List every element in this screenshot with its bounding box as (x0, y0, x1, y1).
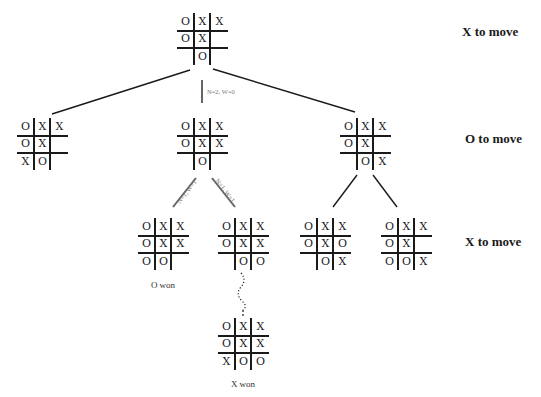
cell (415, 235, 432, 252)
cell: X (334, 253, 351, 270)
cell: X (235, 335, 252, 352)
edge-label-middle-right: N=1, W=1 (214, 177, 237, 203)
caption-x-won: X won (213, 379, 273, 389)
cell (211, 153, 228, 170)
board-level2-b: O X X O X X O O (218, 218, 269, 270)
cell: X (34, 135, 51, 152)
cell (51, 153, 68, 170)
cell: O (340, 118, 357, 135)
cell: X (211, 135, 228, 152)
cell (177, 153, 194, 170)
side-label-level0: X to move (462, 24, 518, 40)
cell: O (381, 235, 398, 252)
cell: X (374, 153, 391, 170)
cell: O (381, 253, 398, 270)
board-level2-c: O X X O X O O X (300, 218, 351, 270)
tree-edges: N=2, W=0 N=1, W=1 N=1, W=1 (0, 0, 541, 397)
cell: O (300, 235, 317, 252)
cell: O (398, 253, 415, 270)
cell: X (398, 218, 415, 235)
cell: X (194, 30, 211, 47)
cell: X (415, 253, 432, 270)
cell: X (194, 118, 211, 135)
cell: O (177, 135, 194, 152)
cell: X (252, 318, 269, 335)
cell: X (357, 135, 374, 152)
cell: O (138, 218, 155, 235)
cell: O (218, 218, 235, 235)
cell: X (155, 218, 172, 235)
cell: O (317, 253, 334, 270)
cell: O (138, 235, 155, 252)
cell: X (357, 118, 374, 135)
cell (211, 48, 228, 65)
cell (211, 30, 228, 47)
cell: O (177, 118, 194, 135)
caption-o-won: O won (133, 280, 193, 290)
side-label-level1: O to move (465, 131, 522, 147)
game-tree-diagram: N=2, W=0 N=1, W=1 N=1, W=1 O X X O X O O… (0, 0, 541, 397)
cell: X (218, 353, 235, 370)
cell: O (194, 48, 211, 65)
cell: O (252, 253, 269, 270)
cell: O (17, 135, 34, 152)
cell: X (334, 218, 351, 235)
edge-label-middle-left: N=1, W=1 (175, 178, 198, 204)
board-level1-right: O X X O X O X (340, 118, 391, 170)
cell: O (381, 218, 398, 235)
cell: O (177, 13, 194, 30)
board-level1-left: O X X O X X O (17, 118, 68, 170)
cell: X (34, 118, 51, 135)
cell: X (252, 218, 269, 235)
cell: O (138, 253, 155, 270)
cell: O (235, 353, 252, 370)
cell: O (340, 135, 357, 152)
cell: O (218, 335, 235, 352)
cell: O (177, 30, 194, 47)
cell (218, 253, 235, 270)
cell: X (211, 13, 228, 30)
cell: X (211, 118, 228, 135)
board-level2-d: O X X O X O O X (381, 218, 432, 270)
cell: O (155, 253, 172, 270)
cell: X (415, 218, 432, 235)
cell: O (17, 118, 34, 135)
side-label-level2: X to move (465, 234, 521, 250)
cell: O (252, 353, 269, 370)
cell: O (300, 218, 317, 235)
edge-right-left (333, 175, 357, 207)
cell: O (357, 153, 374, 170)
cell: X (398, 235, 415, 252)
board-root: O X X O X O (177, 13, 228, 65)
edge-right-right (373, 175, 397, 207)
cell: O (218, 235, 235, 252)
cell: X (17, 153, 34, 170)
cell: O (235, 253, 252, 270)
cell: X (317, 218, 334, 235)
edge-ellipsis-path (238, 273, 245, 310)
edge-label-root-middle: N=2, W=0 (207, 88, 235, 95)
cell: O (218, 318, 235, 335)
cell: X (235, 218, 252, 235)
cell: X (172, 235, 189, 252)
cell: X (252, 335, 269, 352)
cell (374, 135, 391, 152)
cell: X (194, 13, 211, 30)
cell: O (334, 235, 351, 252)
cell (340, 153, 357, 170)
board-level1-middle: O X X O X X O (177, 118, 228, 170)
cell (300, 253, 317, 270)
cell: X (374, 118, 391, 135)
board-terminal: O X X O X X X O O (218, 318, 269, 370)
cell: X (51, 118, 68, 135)
cell: X (317, 235, 334, 252)
cell: X (172, 218, 189, 235)
cell: O (194, 153, 211, 170)
cell (51, 135, 68, 152)
cell: X (252, 235, 269, 252)
cell: X (155, 235, 172, 252)
cell: X (194, 135, 211, 152)
cell: X (235, 318, 252, 335)
cell (172, 253, 189, 270)
cell: O (34, 153, 51, 170)
